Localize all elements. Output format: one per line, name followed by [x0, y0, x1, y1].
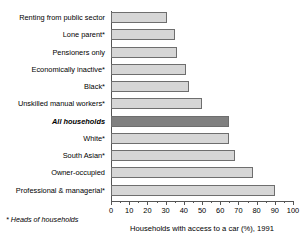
category-label: Economically inactive*: [0, 64, 105, 75]
category-label: Renting from public sector: [0, 12, 105, 23]
x-tick-minor: [266, 201, 267, 203]
x-tick-label: 60: [216, 206, 224, 215]
bar-row: [111, 185, 293, 196]
bar-row: [111, 167, 293, 178]
x-tick-minor: [157, 201, 158, 203]
category-label: Lone parent*: [0, 29, 105, 40]
bar-row: [111, 64, 293, 75]
x-tick-label: 40: [180, 206, 188, 215]
bars-container: [111, 11, 293, 201]
bar: [111, 98, 202, 109]
category-labels-container: Renting from public sectorLone parent*Pe…: [0, 11, 108, 201]
bar: [111, 185, 275, 196]
x-tick-major: [129, 201, 130, 205]
bar: [111, 47, 177, 58]
x-tick-label: 30: [161, 206, 169, 215]
category-label: Owner-occupied: [0, 167, 105, 178]
x-tick-major: [111, 201, 112, 205]
x-tick-major: [238, 201, 239, 205]
bar: [111, 64, 186, 75]
x-tick-label: 80: [252, 206, 260, 215]
category-label: Black*: [0, 81, 105, 92]
bar-row: [111, 116, 293, 127]
bar-row: [111, 47, 293, 58]
x-tick-label: 0: [109, 206, 113, 215]
x-tick-major: [257, 201, 258, 205]
bar-row: [111, 98, 293, 109]
bar-chart: Renting from public sectorLone parent*Pe…: [0, 0, 308, 244]
x-tick-minor: [229, 201, 230, 203]
bar: [111, 150, 235, 161]
x-tick-major: [220, 201, 221, 205]
x-tick-major: [275, 201, 276, 205]
category-label: Unskilled manual workers*: [0, 98, 105, 109]
category-label: Professional & managerial*: [0, 185, 105, 196]
x-tick-minor: [248, 201, 249, 203]
x-tick-major: [293, 201, 294, 205]
x-axis-title: Households with access to a car (%), 199…: [111, 224, 293, 233]
bar-row: [111, 150, 293, 161]
x-tick-minor: [175, 201, 176, 203]
category-label: Pensioners only: [0, 47, 105, 58]
x-tick-label: 10: [125, 206, 133, 215]
category-label: White*: [0, 133, 105, 144]
x-tick-minor: [193, 201, 194, 203]
category-label: South Asian*: [0, 150, 105, 161]
x-tick-minor: [138, 201, 139, 203]
x-tick-label: 100: [287, 206, 299, 215]
chart-footnote: * Heads of households: [6, 215, 78, 224]
bar: [111, 12, 167, 23]
x-tick-label: 20: [143, 206, 151, 215]
x-tick-label: 70: [234, 206, 242, 215]
x-tick-minor: [120, 201, 121, 203]
bar-row: [111, 12, 293, 23]
bar-row: [111, 81, 293, 92]
bar: [111, 167, 253, 178]
bar: [111, 133, 229, 144]
x-tick-label: 90: [271, 206, 279, 215]
x-tick-label: 50: [198, 206, 206, 215]
x-tick-major: [202, 201, 203, 205]
x-tick-minor: [211, 201, 212, 203]
bar: [111, 81, 189, 92]
bar-row: [111, 29, 293, 40]
x-tick-major: [184, 201, 185, 205]
bar-row: [111, 133, 293, 144]
x-tick-minor: [284, 201, 285, 203]
x-tick-major: [147, 201, 148, 205]
x-tick-major: [166, 201, 167, 205]
category-label: All households: [0, 116, 105, 127]
bar: [111, 116, 229, 127]
bar: [111, 29, 175, 40]
